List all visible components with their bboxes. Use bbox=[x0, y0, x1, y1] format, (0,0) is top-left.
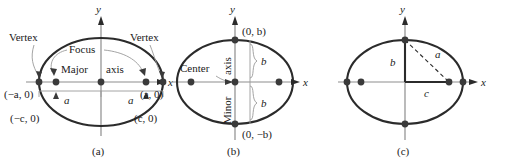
semi-major-arrow-left bbox=[53, 92, 59, 99]
focus-label: Focus bbox=[69, 43, 95, 55]
focus-left-leader-arrow bbox=[50, 68, 57, 76]
ellipse-figure: y x Vertex Vertex Focus bbox=[0, 0, 515, 164]
focus-right-coordinate: (c, 0) bbox=[134, 112, 158, 125]
triangle-leg-horizontal-label: c bbox=[424, 87, 429, 99]
x-axis-label: x bbox=[480, 76, 486, 88]
triangle-leg-vertical-label: b bbox=[390, 56, 396, 68]
y-axis-arrowhead bbox=[232, 16, 238, 25]
triangle-hypotenuse-label: a bbox=[435, 48, 441, 60]
panel-b-caption: (b) bbox=[227, 145, 240, 158]
center-leader-arrow bbox=[225, 79, 233, 85]
minor-axis-label-minor: Minor bbox=[221, 96, 233, 124]
major-axis-label-major: Major bbox=[61, 63, 88, 75]
vertex-left-point bbox=[344, 79, 351, 86]
semi-minor-lower-brace bbox=[250, 86, 257, 120]
co-vertex-bottom-point bbox=[402, 121, 409, 128]
minor-axis-label-axis: axis bbox=[221, 57, 233, 75]
x-axis-label: x bbox=[302, 76, 308, 88]
triangle-hypotenuse bbox=[405, 40, 449, 82]
y-axis-arrowhead bbox=[402, 16, 408, 25]
focus-right-point bbox=[143, 79, 150, 86]
major-axis-label-axis: axis bbox=[106, 63, 124, 75]
focus-left-coordinate: (−c, 0) bbox=[10, 112, 40, 125]
y-axis-label: y bbox=[399, 3, 405, 15]
y-axis-label: y bbox=[229, 3, 235, 15]
center-label: Center bbox=[180, 62, 210, 74]
co-vertex-bottom-coordinate: (0, −b) bbox=[242, 128, 272, 141]
vertex-left-coordinate: (−a, 0) bbox=[4, 88, 34, 101]
panel-c-caption: (c) bbox=[397, 145, 410, 158]
vertex-right-coordinate: (a, 0) bbox=[140, 88, 164, 101]
co-vertex-top-point bbox=[402, 37, 409, 44]
vertex-right-leader bbox=[150, 45, 161, 75]
vertex-left-label: Vertex bbox=[9, 31, 38, 43]
vertex-right-leader-arrow bbox=[159, 71, 165, 79]
focus-left-point bbox=[188, 79, 195, 86]
semi-major-left-label: a bbox=[64, 94, 70, 106]
panel-b-canvas: y x (0, b) (0, −b) Center axis Minor bbox=[172, 0, 338, 164]
panel-a: y x Vertex Vertex Focus bbox=[0, 0, 176, 164]
y-axis-label: y bbox=[95, 3, 101, 15]
focus-left-point bbox=[53, 79, 60, 86]
x-axis-arrowhead bbox=[469, 79, 478, 85]
focus-right-leader-arrow bbox=[139, 68, 146, 76]
panel-a-canvas: y x Vertex Vertex Focus bbox=[0, 0, 176, 164]
semi-minor-upper-brace bbox=[250, 44, 257, 78]
panel-c-canvas: y x b c a (c) bbox=[338, 0, 515, 164]
y-axis-arrowhead bbox=[98, 16, 104, 25]
focus-right-point bbox=[276, 79, 283, 86]
vertex-right-point bbox=[460, 79, 467, 86]
panel-a-caption: (a) bbox=[92, 145, 105, 158]
semi-minor-upper-label: b bbox=[261, 55, 267, 67]
panel-c: y x b c a (c) bbox=[338, 0, 515, 164]
vertex-left-leader-arrow bbox=[36, 71, 42, 79]
center-point bbox=[98, 79, 105, 86]
semi-minor-lower-label: b bbox=[261, 97, 267, 109]
focus-right-point bbox=[446, 79, 453, 86]
semi-major-right-label: a bbox=[128, 94, 134, 106]
co-vertex-top-coordinate: (0, b) bbox=[242, 25, 266, 38]
vertex-right-point bbox=[160, 79, 167, 86]
vertex-left-leader bbox=[32, 45, 38, 75]
vertex-right-label: Vertex bbox=[130, 31, 159, 43]
panel-b: y x (0, b) (0, −b) Center axis Minor bbox=[172, 0, 338, 164]
co-vertex-top-point bbox=[232, 37, 239, 44]
focus-left-point bbox=[358, 79, 365, 86]
vertex-left-point bbox=[36, 79, 43, 86]
